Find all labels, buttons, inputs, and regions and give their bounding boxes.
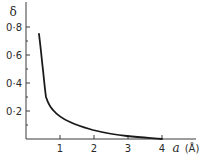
y-axis-title: δ bbox=[9, 5, 16, 19]
x-tick-label: 2 bbox=[91, 143, 97, 154]
x-axis-unit: (Å) bbox=[185, 142, 200, 154]
chart: 0·2 0·4 0·6 0·8 1 2 3 4 δ a (Å) bbox=[0, 0, 204, 162]
y-tick-label: 0·4 bbox=[6, 78, 22, 89]
data-curve bbox=[39, 34, 162, 139]
x-tick-label: 1 bbox=[57, 143, 63, 154]
y-tick-label: 0·2 bbox=[6, 106, 22, 117]
y-tick-label: 0·6 bbox=[6, 50, 22, 61]
x-tick-label: 4 bbox=[159, 143, 165, 154]
x-tick-label: 3 bbox=[125, 143, 131, 154]
y-tick-label: 0·8 bbox=[6, 22, 22, 33]
x-axis-title: a bbox=[172, 141, 179, 155]
y-ticks bbox=[26, 27, 30, 125]
